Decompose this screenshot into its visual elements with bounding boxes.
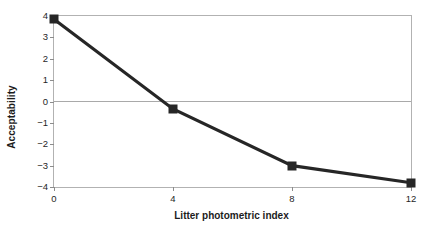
y-tick-label: 1 [43, 75, 48, 85]
data-series-line [54, 16, 411, 187]
y-tick-label: −1 [37, 118, 48, 128]
x-tick-mark [411, 187, 412, 191]
x-tick-mark [54, 187, 55, 191]
x-tick-mark [173, 187, 174, 191]
y-tick-label: 2 [43, 54, 48, 64]
y-axis-title: Acceptability [2, 0, 20, 234]
data-point-marker [288, 161, 297, 170]
data-point-marker [407, 178, 416, 187]
x-tick-mark [292, 187, 293, 191]
data-point-marker [169, 104, 178, 113]
x-tick-label: 0 [51, 194, 56, 204]
y-tick-label: 3 [43, 33, 48, 43]
plot-area: 43210−1−2−3−4 04812 [53, 15, 412, 188]
x-axis-title: Litter photometric index [53, 210, 410, 221]
y-tick-label: 0 [43, 97, 48, 107]
y-tick-label: −2 [37, 140, 48, 150]
data-point-marker [50, 15, 59, 24]
x-tick-label: 4 [170, 194, 175, 204]
y-axis-title-container: Acceptability [2, 0, 20, 200]
y-tick-label: 4 [43, 11, 48, 21]
x-tick-label: 12 [406, 194, 417, 204]
x-tick-label: 8 [289, 194, 294, 204]
y-tick-label: −4 [37, 182, 48, 192]
chart-figure: Acceptability 43210−1−2−3−4 04812 Litter… [0, 0, 428, 234]
y-tick-label: −3 [37, 161, 48, 171]
